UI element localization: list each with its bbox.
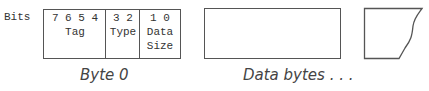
data-bytes-caption: Data bytes . . . [243, 66, 354, 84]
torn-data-byte-icon [0, 0, 429, 91]
